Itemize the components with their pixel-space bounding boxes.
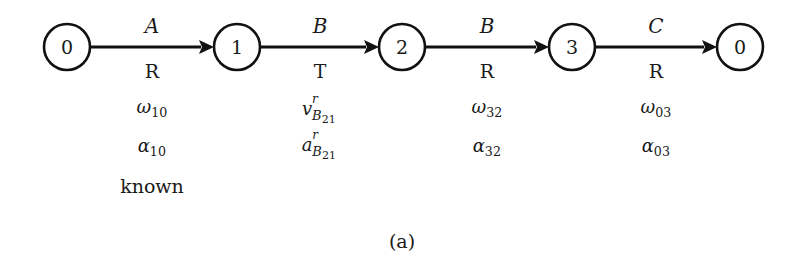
edge-joint-letter-0-1: A — [112, 16, 192, 36]
quantity-item: vrB21 — [265, 100, 375, 118]
quantity-item: ω10 — [97, 98, 207, 119]
node-label-n2: 2 — [375, 38, 429, 57]
edge-joint-type-0-1: R — [112, 62, 192, 81]
edge-joint-letter-3-0: C — [616, 16, 696, 36]
figure-caption: (a) — [0, 232, 804, 251]
edge-quantities-1-2: vrB21arB21 — [265, 100, 375, 154]
edge-quantities-2-3: ω32α32 — [432, 98, 542, 159]
node-label-n0b: 0 — [713, 38, 767, 57]
quantity-item: α10 — [97, 137, 207, 158]
quantity-item: α03 — [601, 137, 711, 158]
edge-joint-letter-2-3: B — [447, 16, 527, 36]
quantity-item: known — [97, 177, 207, 196]
edge-quantities-0-1: ω10α10known — [97, 98, 207, 196]
edge-joint-type-1-2: T — [280, 62, 360, 81]
quantity-item: α32 — [432, 137, 542, 158]
quantity-item: ω32 — [432, 98, 542, 119]
quantity-item: arB21 — [265, 136, 375, 154]
edge-quantities-3-0: ω03α03 — [601, 98, 711, 159]
edge-joint-letter-1-2: B — [280, 16, 360, 36]
node-label-n1: 1 — [210, 38, 264, 57]
node-label-n0a: 0 — [40, 38, 94, 57]
edge-joint-type-2-3: R — [447, 62, 527, 81]
quantity-item: ω03 — [601, 98, 711, 119]
edge-joint-type-3-0: R — [616, 62, 696, 81]
node-label-n3: 3 — [545, 38, 599, 57]
figure-kinematic-chain: 01230 ARBTBRCR ω10α10knownvrB21arB21ω32α… — [0, 0, 804, 278]
